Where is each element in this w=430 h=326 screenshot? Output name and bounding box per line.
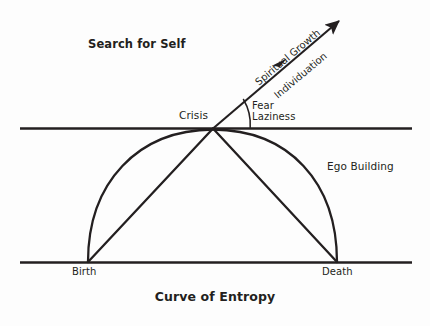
label-fear-laziness: Fear Laziness bbox=[252, 101, 295, 122]
label-ego-building: Ego Building bbox=[327, 161, 394, 172]
label-fear: Fear bbox=[252, 101, 295, 112]
label-birth: Birth bbox=[72, 267, 97, 278]
label-laziness: Laziness bbox=[252, 112, 295, 123]
diagram-title: Curve of Entropy bbox=[0, 290, 430, 303]
ascent-line bbox=[88, 129, 213, 263]
label-death: Death bbox=[322, 267, 353, 278]
angle-bracket-icon bbox=[244, 100, 251, 128]
label-search-for-self: Search for Self bbox=[88, 38, 186, 50]
descent-line bbox=[213, 129, 337, 263]
label-crisis: Crisis bbox=[179, 110, 208, 121]
entropy-diagram: Search for Self Crisis Ego Building Birt… bbox=[0, 0, 430, 326]
entropy-arc bbox=[88, 130, 337, 263]
